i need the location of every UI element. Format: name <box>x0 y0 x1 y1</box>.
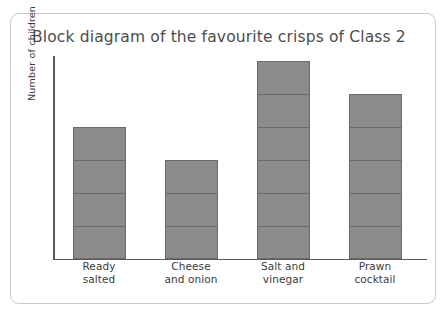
x-label-line-1: Salt and <box>243 260 324 273</box>
x-label-line-1: Ready <box>59 260 140 273</box>
x-label-line-1: Prawn <box>335 260 416 273</box>
x-label-prawn-cocktail: Prawn cocktail <box>335 260 416 285</box>
bar-slot-cheese-and-onion <box>151 160 232 259</box>
x-label-line-2: cocktail <box>335 273 416 286</box>
chart-card: Block diagram of the favourite crisps of… <box>10 13 436 304</box>
bar-prawn-cocktail <box>349 94 402 259</box>
x-label-line-1: Cheese <box>151 260 232 273</box>
bar-block <box>257 61 310 94</box>
bar-block <box>349 226 402 259</box>
x-label-cheese-and-onion: Cheese and onion <box>151 260 232 285</box>
bar-block <box>349 127 402 160</box>
x-axis-labels: Ready salted Cheese and onion Salt and v… <box>55 256 427 286</box>
plot-area: Number of children Ready salted Cheese <box>53 43 427 286</box>
bar-slot-salt-and-vinegar <box>243 61 324 259</box>
x-label-salt-and-vinegar: Salt and vinegar <box>243 260 324 285</box>
bar-block <box>257 127 310 160</box>
bar-block <box>349 94 402 127</box>
y-axis-label: Number of children <box>26 0 37 101</box>
bar-block <box>73 193 126 226</box>
bar-block <box>165 160 218 193</box>
x-label-line-2: salted <box>59 273 140 286</box>
bar-cheese-and-onion <box>165 160 218 259</box>
bar-block <box>349 160 402 193</box>
x-label-line-2: vinegar <box>243 273 324 286</box>
bar-block <box>257 94 310 127</box>
bar-block <box>349 193 402 226</box>
x-label-line-2: and onion <box>151 273 232 286</box>
bar-ready-salted <box>73 127 126 259</box>
cropped-top-text <box>0 0 446 9</box>
bar-slot-ready-salted <box>59 127 140 259</box>
x-label-ready-salted: Ready salted <box>59 260 140 285</box>
bar-series <box>55 57 427 259</box>
bar-block <box>73 160 126 193</box>
bar-block <box>165 226 218 259</box>
bar-block <box>73 127 126 160</box>
bar-block <box>257 226 310 259</box>
bar-block <box>165 193 218 226</box>
bar-slot-prawn-cocktail <box>335 94 416 259</box>
bar-block <box>73 226 126 259</box>
bar-block <box>257 160 310 193</box>
bar-block <box>257 193 310 226</box>
bar-salt-and-vinegar <box>257 61 310 259</box>
